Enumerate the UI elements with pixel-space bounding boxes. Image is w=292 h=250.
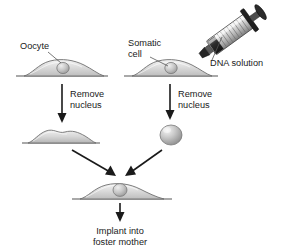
isolated-nucleus bbox=[160, 125, 182, 145]
somatic-cell-label-line1: Somatic bbox=[128, 38, 162, 48]
diagram-canvas: Oocyte Remove nucleus Somatic cell bbox=[0, 0, 292, 250]
enucleated-oocyte-group bbox=[22, 130, 100, 143]
somatic-cell-nuclear-transfer-diagram: Oocyte Remove nucleus Somatic cell bbox=[0, 0, 292, 250]
implantation-group: Implant into foster mother bbox=[93, 203, 147, 247]
reconstructed-cell-group bbox=[72, 184, 172, 199]
oocyte-nucleus bbox=[57, 62, 69, 73]
enucleated-oocyte-body bbox=[28, 130, 96, 143]
implantation-arrowhead bbox=[116, 212, 125, 222]
dna-solution-label: DNA solution bbox=[210, 58, 263, 68]
remove-nucleus-right-label-line2: nucleus bbox=[178, 100, 210, 110]
remove-nucleus-left-group: Remove nucleus bbox=[58, 84, 105, 123]
oocyte-label: Oocyte bbox=[20, 41, 49, 51]
merge-arrow-right-shaft bbox=[131, 150, 162, 172]
somatic-cell-label-line2: cell bbox=[128, 49, 142, 59]
implantation-label-line2: foster mother bbox=[93, 237, 147, 247]
merge-arrow-right-arrowhead bbox=[125, 166, 136, 177]
reconstructed-cell-nucleus bbox=[113, 184, 127, 197]
remove-nucleus-right-group: Remove nucleus bbox=[166, 84, 213, 120]
remove-nucleus-right-label-line1: Remove bbox=[178, 89, 212, 99]
isolated-nucleus-group bbox=[160, 125, 182, 145]
syringe-needle bbox=[185, 55, 201, 67]
somatic-cell-nucleus bbox=[165, 62, 177, 73]
remove-nucleus-left-label-line2: nucleus bbox=[70, 100, 102, 110]
remove-nucleus-left-label-line1: Remove bbox=[70, 89, 104, 99]
isolated-nucleus-specular bbox=[163, 127, 171, 133]
converging-arrows-group bbox=[72, 150, 162, 176]
remove-nucleus-right-arrowhead bbox=[166, 110, 175, 120]
implantation-label-line1: Implant into bbox=[96, 226, 144, 236]
oocyte-group: Oocyte bbox=[16, 41, 108, 76]
remove-nucleus-left-arrowhead bbox=[58, 113, 67, 123]
merge-arrow-left-shaft bbox=[72, 150, 110, 172]
